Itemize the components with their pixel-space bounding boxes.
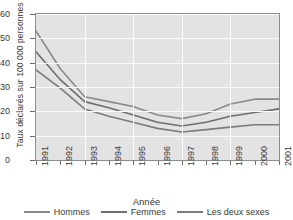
x-tick-mark	[60, 161, 61, 165]
gridline-vertical	[133, 14, 134, 160]
x-tick-label: 1993	[89, 146, 99, 166]
gridline-horizontal	[36, 38, 279, 39]
x-tick-label: 1994	[113, 146, 123, 166]
y-tick-label: 60	[0, 10, 10, 18]
gridline-vertical	[85, 14, 86, 160]
y-tick-mark	[30, 63, 35, 64]
x-tick-mark	[109, 161, 110, 165]
x-tick-label: 2000	[259, 146, 269, 166]
x-tick-mark	[158, 161, 159, 165]
series-line-hommes	[36, 31, 279, 119]
y-tick-mark	[30, 87, 35, 88]
x-tick-label: 1992	[64, 146, 74, 166]
x-tick-mark	[230, 161, 231, 165]
x-tick-label: 1995	[137, 146, 147, 166]
x-tick-label: 1997	[186, 146, 196, 166]
legend-line-icon	[24, 211, 50, 213]
x-tick-label: 1998	[210, 146, 220, 166]
legend-line-icon	[177, 211, 203, 213]
y-tick-mark	[30, 160, 35, 161]
y-tick-label: 50	[0, 34, 10, 42]
x-tick-label: 2001	[283, 146, 293, 166]
y-tick-mark	[30, 111, 35, 112]
y-tick-label: 30	[0, 83, 10, 91]
x-tick-mark	[182, 161, 183, 165]
legend-item-les-deux-sexes[interactable]: Les deux sexes	[177, 207, 270, 217]
y-axis-title: Taux déclarés sur 100 000 personnes	[15, 0, 25, 155]
gridline-horizontal	[36, 87, 279, 88]
y-tick-label: 10	[0, 132, 10, 140]
y-tick-label: 0	[0, 156, 10, 164]
legend-label: Hommes	[54, 207, 90, 217]
legend-line-icon	[101, 211, 127, 213]
y-tick-label: 40	[0, 59, 10, 67]
legend-item-femmes[interactable]: Femmes	[101, 207, 166, 217]
x-tick-mark	[36, 161, 37, 165]
gridline-horizontal	[36, 14, 279, 15]
legend-label: Les deux sexes	[207, 207, 270, 217]
chart-container: Taux déclarés sur 100 000 personnes 0102…	[0, 0, 293, 220]
x-tick-label: 1991	[40, 146, 50, 166]
gridline-horizontal	[36, 136, 279, 137]
gridline-horizontal	[36, 63, 279, 64]
y-tick-mark	[30, 38, 35, 39]
y-tick-mark	[30, 14, 35, 15]
x-tick-mark	[255, 161, 256, 165]
legend-label: Femmes	[131, 207, 166, 217]
plot-area	[35, 13, 280, 161]
x-tick-mark	[133, 161, 134, 165]
chart-legend: HommesFemmesLes deux sexes	[0, 205, 293, 219]
x-tick-label: 1996	[162, 146, 172, 166]
y-tick-mark	[30, 136, 35, 137]
gridline-vertical	[182, 14, 183, 160]
gridline-vertical	[230, 14, 231, 160]
x-tick-mark	[206, 161, 207, 165]
gridline-horizontal	[36, 111, 279, 112]
x-tick-mark	[279, 161, 280, 165]
x-tick-mark	[85, 161, 86, 165]
x-tick-label: 1999	[234, 146, 244, 166]
legend-item-hommes[interactable]: Hommes	[24, 207, 90, 217]
y-tick-label: 20	[0, 107, 10, 115]
